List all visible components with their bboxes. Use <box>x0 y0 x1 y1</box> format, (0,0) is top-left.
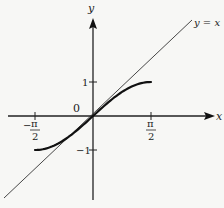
y-axis-label: y <box>87 2 95 15</box>
identity-line <box>4 20 192 198</box>
svg-text:2: 2 <box>148 131 154 142</box>
chart-canvas: y x y = x 0 1 −1 − π 2 π 2 <box>0 0 224 208</box>
origin-label: 0 <box>73 102 80 115</box>
x-tick-label-neg-pi-half: − π 2 <box>23 118 40 142</box>
y-tick-label-neg-1: −1 <box>76 145 91 156</box>
svg-text:2: 2 <box>32 131 38 142</box>
x-tick-label-pi-half: π 2 <box>146 118 156 142</box>
svg-text:π: π <box>147 118 154 129</box>
x-axis-label: x <box>216 110 223 123</box>
y-tick-label-1: 1 <box>82 77 88 88</box>
svg-text:π: π <box>31 118 38 129</box>
identity-line-label: y = x <box>193 17 220 28</box>
